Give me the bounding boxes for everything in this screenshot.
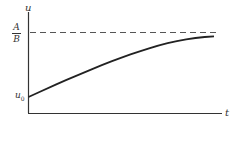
- diagram-canvas: [0, 0, 240, 142]
- asymptote-label: A B: [12, 23, 21, 44]
- y-axis-label: u: [25, 3, 31, 13]
- asymptote-denominator: B: [13, 35, 20, 44]
- initial-value-label: u0: [15, 91, 25, 102]
- x-axis-label: t: [225, 108, 229, 118]
- initial-value-subscript: 0: [21, 95, 25, 102]
- growth-curve: [29, 36, 215, 97]
- asymptote-numerator: A: [13, 23, 20, 32]
